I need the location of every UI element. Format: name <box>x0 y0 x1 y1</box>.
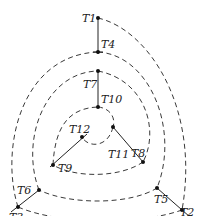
dashed-arcs <box>12 18 186 216</box>
label-t7: T7 <box>83 78 97 91</box>
label-t2: T2 <box>180 206 194 216</box>
point-t11 <box>111 125 115 129</box>
arc-t10-t11 <box>98 107 114 127</box>
label-t11: T11 <box>108 148 129 161</box>
arc-t9-t10 <box>53 107 98 165</box>
point-t5 <box>155 186 159 190</box>
label-t10: T10 <box>101 93 122 106</box>
point-t7 <box>96 69 100 73</box>
label-t1: T1 <box>82 12 96 25</box>
point-t4 <box>96 50 100 54</box>
label-t6: T6 <box>17 184 31 197</box>
label-t12: T12 <box>69 123 90 136</box>
point-t6 <box>37 188 41 192</box>
label-t9: T9 <box>58 162 72 175</box>
point-t1 <box>96 16 100 20</box>
label-t5: T5 <box>154 193 168 206</box>
arc-t2-t3 <box>18 207 182 216</box>
label-t8: T8 <box>131 147 145 160</box>
arc-t5-t6 <box>39 188 157 201</box>
arc-t4-t5 <box>98 52 165 188</box>
point-t3 <box>16 205 20 209</box>
point-t8 <box>141 160 145 164</box>
labels: T1 T2 T3 T4 T5 T6 T7 T8 T9 T10 T11 T12 <box>9 12 194 216</box>
label-t3: T3 <box>9 211 23 216</box>
point-t10 <box>96 105 100 109</box>
point-t9 <box>51 163 55 167</box>
spiral-diagram: T1 T2 T3 T4 T5 T6 T7 T8 T9 T10 T11 T12 <box>0 0 204 216</box>
label-t4: T4 <box>101 38 115 51</box>
